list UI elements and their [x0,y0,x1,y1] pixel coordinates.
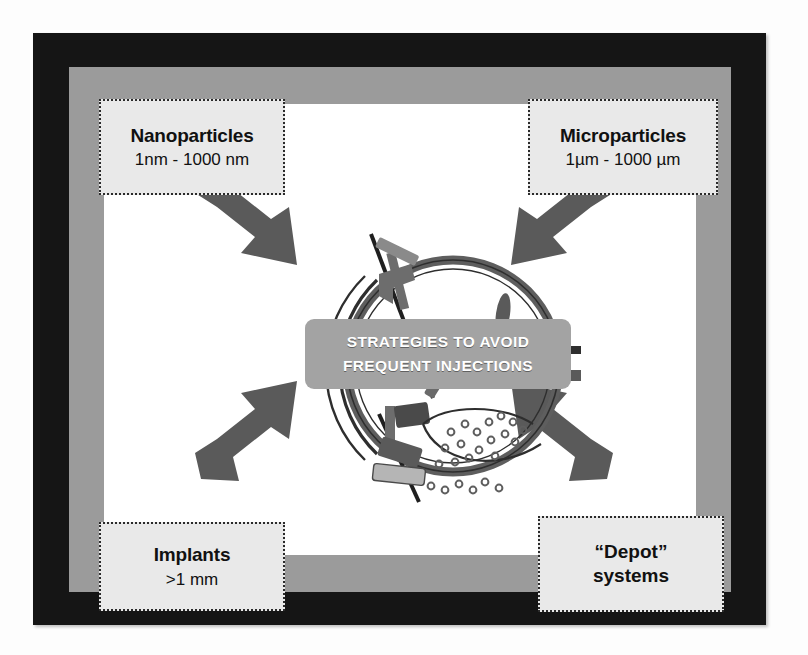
slide-frame: STRATEGIES TO AVOID FREQUENT INJECTIONS … [33,33,766,625]
microparticles-title: Microparticles [560,124,686,148]
page-background: STRATEGIES TO AVOID FREQUENT INJECTIONS … [0,0,808,655]
depot-range: systems [593,564,669,588]
label-box-microparticles: Microparticles 1µm - 1000 µm [528,99,718,195]
banner-line-1: STRATEGIES TO AVOID [347,330,530,354]
implants-range: >1 mm [166,569,218,590]
nanoparticles-title: Nanoparticles [130,124,253,148]
label-box-implants: Implants >1 mm [99,522,285,611]
center-banner: STRATEGIES TO AVOID FREQUENT INJECTIONS [305,319,571,389]
banner-line-2: FREQUENT INJECTIONS [343,354,533,378]
label-box-depot: “Depot” systems [538,516,724,612]
arrow-bottom-left [193,371,323,486]
nanoparticles-range: 1nm - 1000 nm [135,149,249,170]
depot-title: “Depot” [595,540,668,564]
label-box-nanoparticles: Nanoparticles 1nm - 1000 nm [99,99,285,195]
microparticles-range: 1µm - 1000 µm [565,149,680,170]
implants-title: Implants [154,543,231,567]
